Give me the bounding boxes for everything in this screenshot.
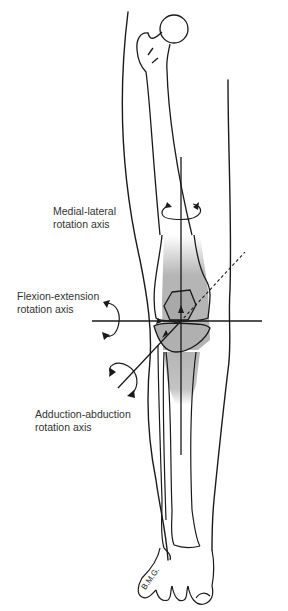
label-line: Adduction-abduction bbox=[35, 408, 131, 421]
label-line: Medial-lateral bbox=[53, 205, 116, 218]
flexion-extension-axis-label: Flexion-extension rotation axis bbox=[17, 290, 99, 316]
label-line: rotation axis bbox=[53, 218, 116, 231]
femur bbox=[137, 15, 192, 235]
label-line: rotation axis bbox=[17, 303, 99, 316]
adduction-abduction-axis-label: Adduction-abduction rotation axis bbox=[35, 408, 131, 434]
label-line: rotation axis bbox=[35, 421, 131, 434]
label-line: Flexion-extension bbox=[17, 290, 99, 303]
medial-lateral-axis-label: Medial-lateral rotation axis bbox=[53, 205, 116, 231]
